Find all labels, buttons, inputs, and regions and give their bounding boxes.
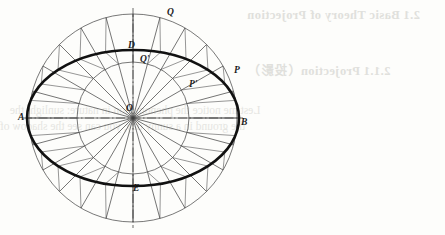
construction-horizontal [31,132,79,135]
point-label-pp: P' [189,80,197,90]
construction-horizontal [187,100,235,103]
construction-horizontal [80,59,105,69]
point-label-e: E [133,184,139,194]
radial-spoke [106,118,133,218]
construction-horizontal [181,84,224,90]
construction-horizontal [181,146,224,152]
point-label-b: B [241,118,247,128]
radial-spoke [133,18,160,118]
construction-vertical [207,166,208,191]
construction-horizontal [31,100,79,103]
point-label-qp: Q' [140,55,150,65]
construction-horizontal [58,158,93,166]
construction-vertical [207,44,208,69]
radial-spoke [59,118,133,192]
construction-vertical [80,28,81,59]
construction-horizontal [41,84,84,90]
construction-horizontal [161,166,186,176]
point-label-a: A [18,113,24,123]
construction-vertical [160,184,161,219]
radial-spoke [43,118,133,170]
radial-spoke [133,91,233,118]
scanned-page: 2.1 Basic Theory of Projection 2.1.1 Pro… [0,0,445,235]
radial-spoke [133,118,223,170]
point-label-o: O [126,104,133,114]
radial-spoke [33,118,133,145]
radial-spoke [33,91,133,118]
construction-horizontal [80,166,105,176]
construction-horizontal [58,70,93,78]
point-label-q: Q [167,8,174,18]
construction-horizontal [173,158,208,166]
point-label-d: D [128,41,135,51]
radial-spoke [133,66,223,118]
construction-horizontal [106,172,119,184]
radial-spoke [81,118,133,208]
construction-vertical [58,44,59,69]
construction-vertical [106,18,107,53]
construction-horizontal [187,132,235,135]
construction-vertical [80,177,81,208]
radial-spoke [133,118,160,218]
point-label-p: P [234,66,240,76]
radial-spoke [133,118,233,145]
construction-horizontal [41,146,84,152]
construction-vertical [58,166,59,191]
radial-spoke [133,118,185,208]
construction-vertical [185,177,186,208]
radial-spoke [43,66,133,118]
ellipse-construction-figure [0,0,445,235]
construction-horizontal [161,59,186,69]
construction-vertical [160,18,161,53]
radial-spoke [59,44,133,118]
radial-spoke [133,118,207,192]
construction-horizontal [147,172,160,184]
radial-spoke [133,28,185,118]
construction-vertical [106,184,107,219]
construction-vertical [185,28,186,59]
construction-horizontal [173,70,208,78]
construction-horizontal [106,52,119,64]
